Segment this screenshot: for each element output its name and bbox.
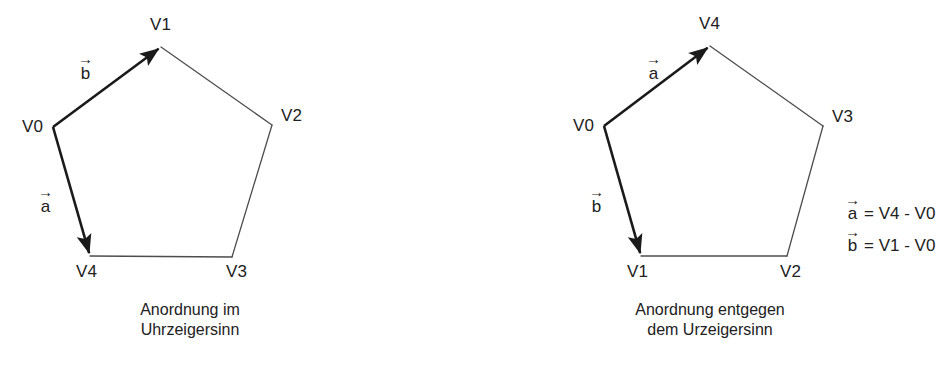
vector-letter: a [38,198,53,215]
polygon-vector-edges [53,48,708,253]
vertex-label-v4: V4 [76,263,97,280]
vertex-label-v4: V4 [699,15,720,32]
equation-row-a: →a= V4 - V0 [845,196,935,222]
caption-line: Anordnung entgegen [560,300,860,320]
equation-expression: = V1 - V0 [864,237,935,254]
vector-label-b: →b [78,55,93,82]
caption-line: Anordnung im [40,300,340,320]
vector-arrow-a [53,127,89,253]
vector-overarrow-icon: → [589,188,604,197]
vector-letter: b [589,198,604,215]
vector-overarrow-icon: → [646,55,661,64]
equation-expression: = V4 - V0 [864,205,935,222]
vector-arrow-b [53,49,159,127]
equation-vector-symbol: →a [845,196,860,222]
polygon-thin-edges [90,46,823,257]
vertex-label-v3: V3 [226,263,247,280]
polygon-edge [232,125,272,257]
vector-label-a: →a [646,55,661,82]
vector-overarrow-icon: → [38,188,53,197]
caption-line: Uhrzeigersinn [40,320,340,340]
caption-line: dem Urzeigersinn [560,320,860,340]
vector-overarrow-icon: → [78,55,93,64]
polygon-edge [787,126,823,256]
vector-definition-equations: →a= V4 - V0→b= V1 - V0 [845,196,935,254]
equation-vector-symbol: →b [845,228,860,254]
vertex-label-v3: V3 [832,108,853,125]
vertex-label-v0: V0 [22,118,43,135]
equation-row-b: →b= V1 - V0 [845,228,935,254]
vector-label-b: →b [589,188,604,215]
vector-letter: a [646,65,661,82]
vector-arrow-b [604,126,640,253]
vertex-label-v1: V1 [627,263,648,280]
vertex-label-v2: V2 [281,107,302,124]
vertex-label-v2: V2 [780,263,801,280]
vertex-label-v0: V0 [573,117,594,134]
vector-letter: b [78,65,93,82]
panel-caption-clockwise: Anordnung imUhrzeigersinn [40,300,340,340]
polygon-ordering-figure: V0V1V2V3V4→b→aAnordnung imUhrzeigersinnV… [0,0,938,371]
polygon-edge [90,256,232,257]
polygon-edge [161,47,272,125]
vertex-label-v1: V1 [150,16,171,33]
panel-caption-counter-clockwise: Anordnung entgegendem Urzeigersinn [560,300,860,340]
polygon-edge [710,46,823,126]
vector-label-a: →a [38,188,53,215]
